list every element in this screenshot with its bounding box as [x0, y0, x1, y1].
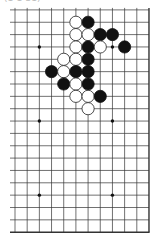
white-stone	[94, 41, 106, 53]
white-stone	[70, 53, 82, 65]
black-stone	[94, 28, 106, 40]
black-stone	[45, 66, 57, 78]
white-stone	[82, 90, 94, 102]
black-stone	[82, 78, 94, 90]
go-board	[0, 0, 157, 241]
white-stone	[70, 41, 82, 53]
black-stone	[58, 78, 70, 90]
black-stone	[82, 41, 94, 53]
white-stone	[82, 28, 94, 40]
black-stone	[82, 66, 94, 78]
black-stone	[94, 90, 106, 102]
star-point	[111, 119, 114, 122]
black-stone	[106, 28, 118, 40]
star-point	[111, 45, 114, 48]
white-stone	[58, 66, 70, 78]
star-point	[38, 45, 41, 48]
black-stone	[70, 66, 82, 78]
star-point	[111, 193, 114, 196]
white-stone	[58, 53, 70, 65]
black-stone	[119, 41, 131, 53]
star-point	[38, 119, 41, 122]
stones	[45, 16, 130, 115]
white-stone	[70, 78, 82, 90]
white-stone	[82, 103, 94, 115]
star-point	[38, 193, 41, 196]
black-stone	[82, 53, 94, 65]
white-stone	[70, 28, 82, 40]
board-grid	[10, 8, 150, 232]
white-stone	[70, 16, 82, 28]
black-stone	[82, 16, 94, 28]
white-stone	[70, 90, 82, 102]
